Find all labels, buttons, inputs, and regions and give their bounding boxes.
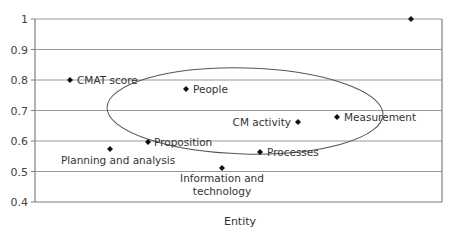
y-tick-label: 0.7 <box>11 105 29 118</box>
label-processes: Processes <box>267 146 319 158</box>
diamond-marker-top <box>408 16 414 22</box>
diamond-marker-info-tech <box>219 165 225 171</box>
diamond-marker-planning <box>107 146 113 152</box>
diamond-marker-people <box>183 86 189 92</box>
label-info-tech-line1: Information and <box>180 172 264 184</box>
label-proposition: Proposition <box>154 136 212 148</box>
diamond-marker-measurement <box>334 114 340 120</box>
gridlines <box>35 19 442 172</box>
label-cmat-score: CMAT score <box>77 74 138 86</box>
y-tick-labels: 1 0.9 0.8 0.7 0.6 0.5 0.4 <box>11 13 29 209</box>
y-tick-label: 0.4 <box>11 196 29 209</box>
point-labels: CMAT score Planning and analysis Proposi… <box>61 74 416 197</box>
label-people: People <box>193 83 228 95</box>
y-tick-label: 0.9 <box>11 44 29 57</box>
label-info-tech-line2: technology <box>193 185 251 197</box>
x-axis-title: Entity <box>224 215 257 228</box>
label-measurement: Measurement <box>344 111 416 123</box>
label-planning-analysis: Planning and analysis <box>61 154 175 166</box>
label-cm-activity: CM activity <box>233 116 291 128</box>
y-tick-label: 0.8 <box>11 74 29 87</box>
scatter-chart: 1 0.9 0.8 0.7 0.6 0.5 0.4 CMAT score Pla… <box>0 0 451 235</box>
y-tick-label: 0.6 <box>11 135 29 148</box>
y-tick-label: 0.5 <box>11 166 29 179</box>
data-points <box>67 16 414 171</box>
y-tick-label: 1 <box>21 13 28 26</box>
diamond-marker-cm-activity <box>295 119 301 125</box>
diamond-marker-cmat <box>67 77 73 83</box>
